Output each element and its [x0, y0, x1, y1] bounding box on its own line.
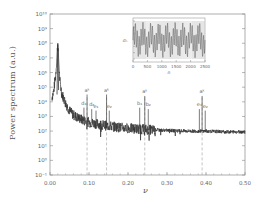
- peak-label: aᵏ: [199, 88, 204, 94]
- main-plot: 10⁻¹10⁰10¹10²10³10⁴10⁵10⁶10⁷10⁸10⁹10¹⁰0.…: [0, 0, 266, 204]
- inset-x-tick-label: 2500: [200, 64, 211, 69]
- peak-label: e₁: [93, 103, 98, 109]
- y-tick-label: 10⁰: [38, 157, 48, 163]
- x-tick-label: 0.20: [122, 180, 135, 186]
- inset-y-label: σₙ: [123, 38, 128, 43]
- peak-label: aᵏ: [142, 88, 147, 94]
- y-tick-label: 10⁸: [38, 40, 48, 46]
- inset-x-tick-label: 500: [144, 64, 152, 69]
- y-tick-label: 10⁵: [38, 84, 47, 90]
- y-tick-label: 10⁴: [38, 99, 48, 105]
- peak-label: e₂: [203, 103, 208, 109]
- x-tick-label: 0.10: [83, 180, 96, 186]
- peak-label: aᵏ: [104, 87, 109, 93]
- y-tick-label: 10⁶: [38, 70, 48, 76]
- x-tick-label: 0.50: [239, 180, 252, 186]
- peak-label: e₁: [197, 101, 202, 107]
- y-tick-label: 10³: [38, 113, 47, 119]
- x-tick-label: 0.00: [44, 180, 57, 186]
- x-tick-label: 0.30: [161, 180, 174, 186]
- y-tick-label: 10⁷: [38, 55, 47, 61]
- peak-label: e₂: [107, 103, 112, 109]
- y-tick-label: 10²: [38, 128, 47, 134]
- power-spectrum-figure: 10⁻¹10⁰10¹10²10³10⁴10⁵10⁶10⁷10⁸10⁹10¹⁰0.…: [0, 0, 266, 204]
- inset-x-label: n: [168, 70, 171, 75]
- y-tick-label: 10¹: [38, 143, 47, 149]
- inset-x-tick-label: 2000: [186, 64, 197, 69]
- y-axis-label: Power spectrum (a.u.): [8, 46, 17, 140]
- y-tick-label: 10¹⁰: [36, 11, 48, 17]
- peak-label: b₂: [146, 101, 151, 107]
- y-tick-label: 10⁻¹: [35, 172, 47, 178]
- y-tick-label: 10⁹: [38, 26, 47, 32]
- inset-x-tick-label: 1500: [171, 64, 182, 69]
- inset-x-tick-label: 1000: [157, 64, 168, 69]
- x-axis-label: ν: [143, 186, 148, 195]
- inset-x-tick-label: 0: [132, 64, 135, 69]
- x-tick-label: 0.40: [200, 180, 213, 186]
- peak-label: d₁: [81, 100, 86, 106]
- peak-label: aᵏ: [84, 87, 89, 93]
- peak-label: b₁: [137, 100, 142, 106]
